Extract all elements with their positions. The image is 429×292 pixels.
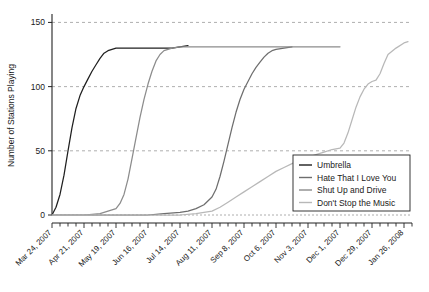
line-chart: 050100150 Mar 24, 2007Apr 21, 2007May 19… xyxy=(0,0,429,292)
y-axis-ticks: 050100150 xyxy=(31,17,52,220)
legend-label: Umbrella xyxy=(317,160,351,170)
y-tick-label: 50 xyxy=(36,146,46,156)
legend-label: Hate That I Love You xyxy=(317,173,397,183)
y-tick-label: 100 xyxy=(31,82,45,92)
legend-label: Shut Up and Drive xyxy=(317,185,387,195)
y-tick-label: 150 xyxy=(31,17,45,27)
legend: UmbrellaHate That I Love YouShut Up and … xyxy=(293,155,410,211)
x-axis-ticks: Mar 24, 2007Apr 21, 2007May 19, 2007Jun … xyxy=(14,223,412,269)
x-tick-label: Sep 8, 2007 xyxy=(209,228,246,265)
y-axis-title: Number of Stations Playing xyxy=(6,64,16,167)
y-axis-label: Number of Stations Playing xyxy=(6,64,16,167)
y-tick-label: 0 xyxy=(40,210,45,220)
chart-container: 050100150 Mar 24, 2007Apr 21, 2007May 19… xyxy=(0,0,429,292)
series-line xyxy=(52,47,292,215)
legend-label: Don't Stop the Music xyxy=(317,198,396,208)
series-line xyxy=(52,46,188,215)
